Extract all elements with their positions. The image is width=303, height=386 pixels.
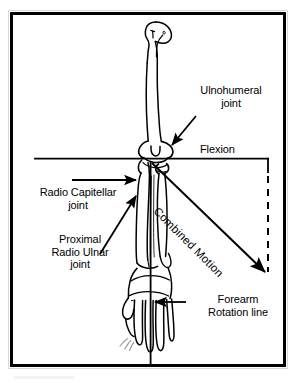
hand-outline xyxy=(123,268,174,352)
label-ulnohumeral-joint: Ulnohumeral joint xyxy=(183,84,279,109)
sketch-hatch-marks xyxy=(120,339,134,351)
leader-line-ulnohumeral xyxy=(172,116,196,145)
anatomical-figure: Ulnohumeral joint Flexion Radio Capitell… xyxy=(0,0,303,386)
page-scan-artifact xyxy=(14,376,74,379)
label-radio-capitellar-joint: Radio Capitellar joint xyxy=(22,186,134,211)
label-proximal-radio-ulnar-joint: Proximal Radio Ulnar joint xyxy=(30,233,130,271)
label-flexion: Flexion xyxy=(200,143,260,156)
humerus-bone xyxy=(145,22,171,141)
